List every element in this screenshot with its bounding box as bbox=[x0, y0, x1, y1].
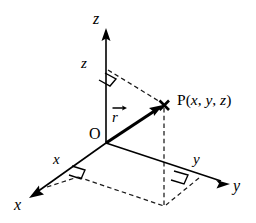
right-angle-marker-y bbox=[171, 171, 188, 184]
vector-r-letter: r bbox=[112, 109, 118, 125]
dashed-z-to-p bbox=[108, 70, 162, 103]
vector-r-label-wrap: r bbox=[112, 110, 118, 125]
point-p-label: P(x, y, z) bbox=[177, 92, 231, 108]
diagram-svg bbox=[0, 0, 256, 223]
right-angle-marker-z bbox=[99, 73, 116, 86]
x-axis-line bbox=[37, 143, 106, 192]
x-segment-label: x bbox=[53, 152, 60, 167]
vector-r-label: r bbox=[112, 110, 118, 125]
y-segment-label: y bbox=[193, 152, 200, 167]
x-axis-label: x bbox=[14, 197, 21, 213]
vector-overbar-arrow-icon bbox=[112, 104, 127, 111]
origin-label: O bbox=[89, 126, 101, 142]
z-axis-label: z bbox=[93, 11, 99, 27]
axes-group bbox=[29, 28, 230, 198]
dashed-xfoot-to-projection bbox=[78, 177, 164, 206]
x-axis-arrowhead bbox=[29, 186, 44, 199]
point-p-text: P(x, y, z) bbox=[177, 91, 231, 108]
z-height-label: z bbox=[81, 56, 87, 71]
y-axis-label: y bbox=[233, 178, 240, 194]
dashed-yfoot-to-projection bbox=[166, 178, 199, 205]
y-axis-arrowhead bbox=[216, 180, 230, 189]
coordinate-diagram: z z x x y y O r P(x, y, z) bbox=[0, 0, 256, 223]
